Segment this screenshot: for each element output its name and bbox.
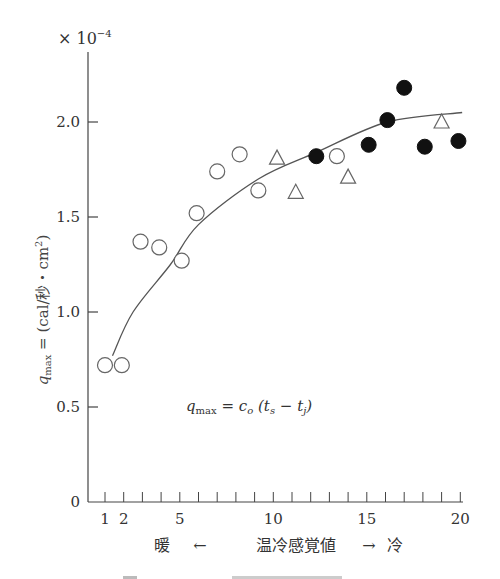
right-arrow-icon: → [362,536,375,555]
x-tick-label: 2 [119,510,129,528]
filled-circle-marker [417,139,432,154]
x-axis-center-label: 温冷感覚値 [256,536,336,555]
filled-circle-marker [380,113,395,128]
y-tick-label: 2.0 [56,113,80,131]
triangle-marker [434,114,449,128]
open-circle-marker [152,240,167,255]
open-circle-marker [98,358,113,373]
data-markers [98,80,466,372]
filled-circle-marker [451,134,466,149]
triangle-marker [341,169,356,183]
axes [88,52,463,502]
y-tick-label: 0.5 [56,398,80,416]
x-axis-left-label: 暖 [154,536,170,555]
formula-annotation: qmax = co (ts − tj) [186,397,312,416]
x-axis-title: 暖 ← 温冷感覚値 → 冷 [154,536,403,555]
x-tick-label: 15 [357,510,376,528]
filled-circle-marker [309,149,324,164]
x-ticks: 125101520 [100,492,470,528]
x-tick-label: 5 [175,510,185,528]
fit-curve [112,113,462,356]
open-circle-marker [329,149,344,164]
y-tick-label: 1.5 [56,208,80,226]
x-tick-label: 20 [451,510,470,528]
left-arrow-icon: ← [193,536,206,555]
x-axis-right-label: 冷 [387,536,403,555]
triangle-marker [288,184,303,198]
scatter-chart: × 10−4 qmax = (cal/秒・cm2) 00.51.01.52.0 … [0,0,500,579]
multiplier-label: × 10−4 [58,28,112,48]
open-circle-marker [114,358,129,373]
open-circle-marker [251,183,266,198]
filled-circle-marker [361,137,376,152]
x-tick-label: 10 [264,510,283,528]
y-tick-label: 0 [70,493,80,511]
y-tick-label: 1.0 [56,303,80,321]
y-ticks: 00.51.01.52.0 [56,113,98,511]
filled-circle-marker [397,80,412,95]
y-axis-title: qmax = (cal/秒・cm2) [33,235,53,386]
open-circle-marker [189,206,204,221]
open-circle-marker [210,164,225,179]
x-tick-label: 1 [100,510,110,528]
triangle-marker [270,150,285,164]
open-circle-marker [174,253,189,268]
open-circle-marker [232,147,247,162]
open-circle-marker [133,234,148,249]
